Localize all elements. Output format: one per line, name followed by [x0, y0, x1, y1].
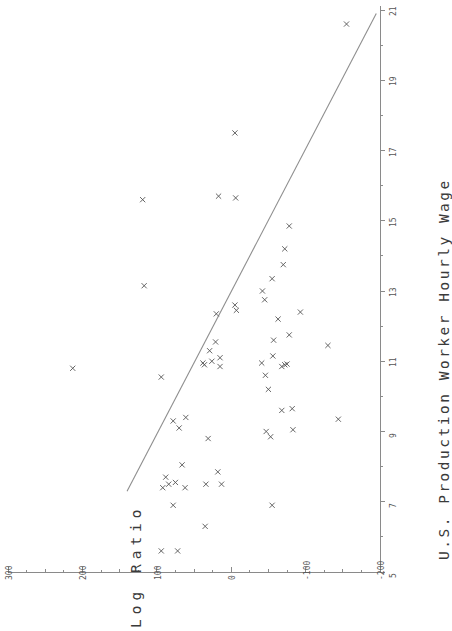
data-point: [214, 311, 219, 316]
data-point: [264, 429, 269, 434]
y-axis-tick-label: -100: [303, 561, 312, 580]
y-axis-tick-label: 200: [79, 566, 88, 580]
x-axis-tick-label: 19: [389, 77, 398, 87]
x-axis-tick-label: 13: [389, 287, 398, 297]
data-point: [159, 548, 164, 553]
data-point: [290, 406, 295, 411]
data-point-group: [70, 21, 349, 553]
data-point: [166, 482, 171, 487]
data-point: [234, 308, 239, 313]
data-point: [216, 194, 221, 199]
x-axis-tick-label: 17: [389, 147, 398, 157]
y-axis-tick-label: -200: [377, 561, 386, 580]
data-point: [213, 339, 218, 344]
data-point: [271, 338, 276, 343]
data-point: [270, 503, 275, 508]
x-axis-tick-label: 7: [389, 503, 398, 508]
data-point: [260, 288, 265, 293]
x-axis-tick-label: 5: [389, 573, 398, 578]
data-point: [209, 359, 214, 364]
data-point: [160, 485, 165, 490]
data-point: [290, 427, 295, 432]
data-point: [206, 436, 211, 441]
data-point: [171, 503, 176, 508]
data-point: [263, 373, 268, 378]
x-axis-tick-label: 11: [389, 358, 398, 368]
data-point: [200, 360, 205, 365]
data-point: [207, 348, 212, 353]
data-point: [219, 482, 224, 487]
data-point: [177, 425, 182, 430]
data-point: [266, 387, 271, 392]
data-point: [217, 355, 222, 360]
data-point: [232, 302, 237, 307]
y-axis-title: Log Ratio: [128, 504, 144, 628]
data-point: [270, 353, 275, 358]
data-point: [287, 223, 292, 228]
data-point: [175, 548, 180, 553]
y-axis-tick-label: 100: [154, 566, 163, 580]
data-point: [142, 283, 147, 288]
data-point: [298, 309, 303, 314]
data-point: [159, 374, 164, 379]
data-point: [179, 462, 184, 467]
data-point: [203, 482, 208, 487]
y-axis-tick-label: 300: [5, 566, 14, 580]
x-axis-title: U.S. Production Worker Hourly Wage: [436, 178, 452, 560]
data-point: [183, 415, 188, 420]
x-axis-tick-label: 21: [389, 6, 398, 16]
data-point: [140, 197, 145, 202]
data-point: [215, 469, 220, 474]
y-axis-tick-label: 0: [228, 575, 237, 580]
data-point: [173, 480, 178, 485]
data-point: [233, 195, 238, 200]
x-axis-tick-label: 9: [389, 433, 398, 438]
x-axis-tick-label: 15: [389, 217, 398, 227]
data-point: [171, 418, 176, 423]
data-point: [270, 276, 275, 281]
data-point: [203, 524, 208, 529]
data-point: [281, 262, 286, 267]
data-point: [262, 297, 267, 302]
data-point: [217, 364, 222, 369]
data-point: [279, 408, 284, 413]
data-point: [259, 360, 264, 365]
data-point: [275, 317, 280, 322]
data-point: [282, 246, 287, 251]
data-point: [182, 485, 187, 490]
data-point: [163, 475, 168, 480]
data-point: [268, 434, 273, 439]
data-point: [344, 21, 349, 26]
data-point: [287, 332, 292, 337]
data-point: [232, 130, 237, 135]
data-point: [336, 417, 341, 422]
data-point: [325, 343, 330, 348]
data-point: [70, 366, 75, 371]
